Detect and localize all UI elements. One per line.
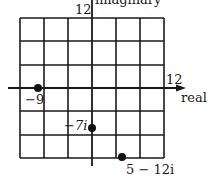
imaginary-axis-label: imaginary <box>95 0 162 7</box>
imaginary-max-label: 12 <box>75 2 92 17</box>
point-minus-9 <box>34 84 42 92</box>
point-minus-7i-label: −7i <box>64 118 87 133</box>
point-minus-7i <box>88 124 96 132</box>
complex-plane-diagram: 12 imaginary 12 real −9 −7i 5 − 12i <box>0 0 210 183</box>
point-5-minus-12i <box>118 153 126 161</box>
real-max-label: 12 <box>166 72 183 87</box>
point-5-minus-12i-label: 5 − 12i <box>126 162 174 177</box>
real-axis-label: real <box>181 90 207 105</box>
point-minus-9-label: −9 <box>25 92 44 107</box>
